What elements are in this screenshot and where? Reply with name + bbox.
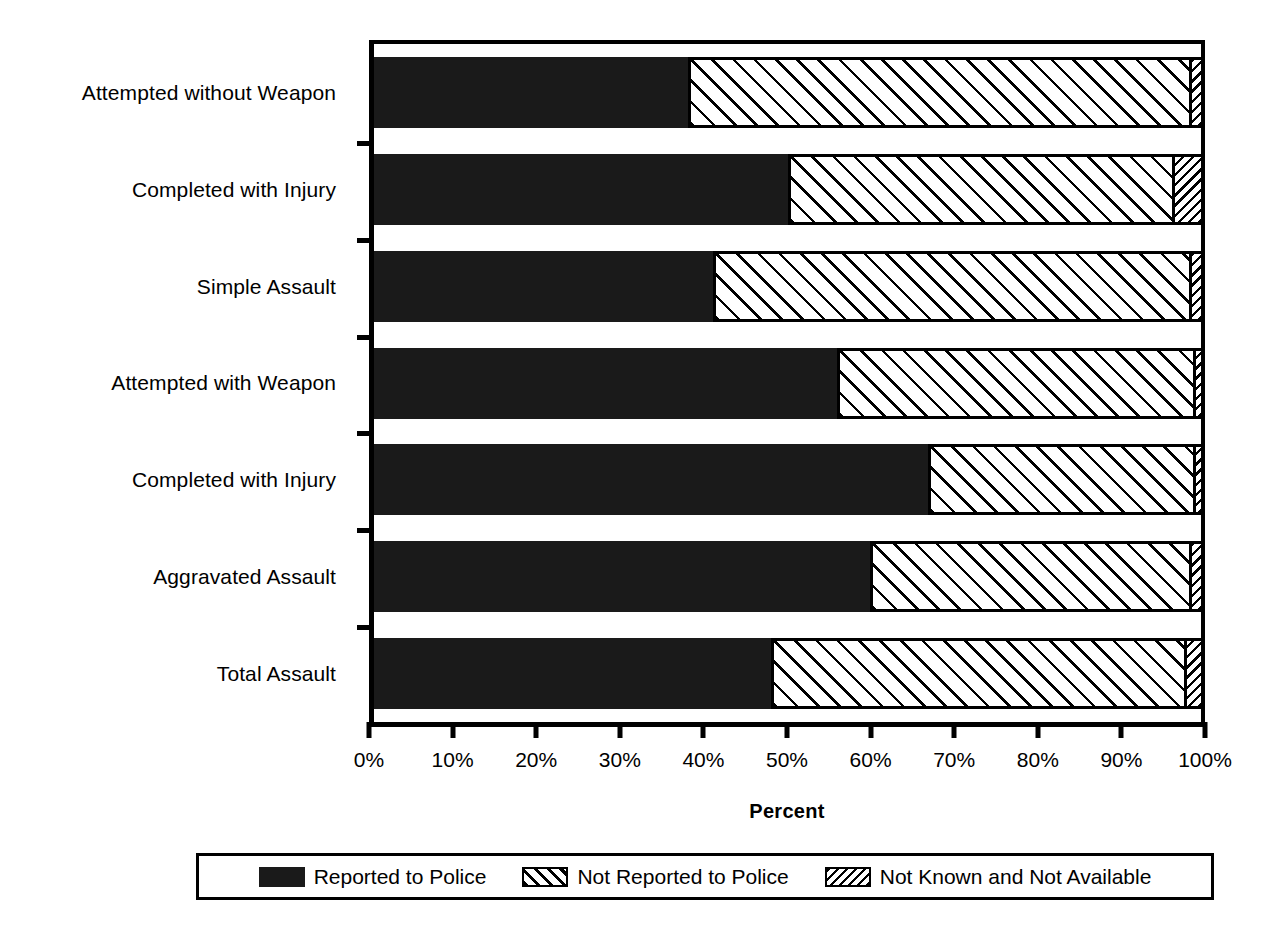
stacked-bar[interactable] — [374, 154, 1201, 225]
stacked-bar[interactable] — [374, 57, 1201, 128]
plot-area — [369, 40, 1205, 722]
bar-slot — [374, 528, 1201, 625]
category-label: Completed with Injury — [20, 431, 356, 528]
x-axis-tick-label: 20% — [515, 748, 557, 772]
bar-segment-not-known[interactable] — [1193, 444, 1201, 515]
category-label: Aggravated Assault — [20, 528, 356, 625]
stacked-bar[interactable] — [374, 638, 1201, 709]
bar-segment-not-reported[interactable] — [870, 541, 1188, 612]
x-axis-tick-label: 50% — [766, 748, 808, 772]
bar-slot — [374, 335, 1201, 432]
bar-segment-not-known[interactable] — [1189, 251, 1201, 322]
bars-container — [374, 44, 1201, 722]
solid-black-swatch-icon — [259, 867, 305, 887]
x-axis-tick-label: 90% — [1100, 748, 1142, 772]
x-axis-tick-label: 100% — [1178, 748, 1232, 772]
x-axis-tick — [617, 722, 622, 738]
x-axis-tick — [868, 722, 873, 738]
legend-item-not-reported: Not Reported to Police — [522, 865, 788, 889]
x-axis-tick — [785, 722, 790, 738]
bar-segment-not-known[interactable] — [1189, 57, 1201, 128]
x-axis-tick — [952, 722, 957, 738]
sparse-hatch-swatch-icon — [522, 867, 568, 887]
category-tick — [357, 431, 374, 436]
bar-segment-not-known[interactable] — [1189, 541, 1201, 612]
category-tick — [357, 335, 374, 340]
x-axis-tick-label: 70% — [933, 748, 975, 772]
x-axis-tick — [701, 722, 706, 738]
category-tick — [357, 141, 374, 146]
bar-segment-not-reported[interactable] — [771, 638, 1185, 709]
category-tick — [357, 238, 374, 243]
bar-segment-reported[interactable] — [374, 57, 688, 128]
bar-segment-reported[interactable] — [374, 638, 771, 709]
x-axis-ticks — [369, 722, 1205, 738]
x-axis-tick-label: 10% — [432, 748, 474, 772]
x-axis-tick-label: 40% — [682, 748, 724, 772]
bar-segment-not-reported[interactable] — [713, 251, 1189, 322]
bar-segment-not-known[interactable] — [1172, 154, 1201, 225]
x-axis-tick-label: 80% — [1017, 748, 1059, 772]
dense-hatch-swatch-icon — [825, 867, 871, 887]
category-tick — [357, 625, 374, 630]
bar-segment-not-reported[interactable] — [688, 57, 1188, 128]
bar-slot — [374, 141, 1201, 238]
stacked-bar[interactable] — [374, 348, 1201, 419]
x-axis-tick-label: 30% — [599, 748, 641, 772]
bar-segment-reported[interactable] — [374, 251, 713, 322]
bar-segment-not-reported[interactable] — [928, 444, 1193, 515]
legend-item-not-known: Not Known and Not Available — [825, 865, 1152, 889]
x-axis-tick — [1035, 722, 1040, 738]
category-tick — [357, 528, 374, 533]
x-axis-tick-labels: 0%10%20%30%40%50%60%70%80%90%100% — [369, 748, 1205, 778]
bar-segment-not-known[interactable] — [1184, 638, 1201, 709]
x-axis-tick — [1203, 722, 1208, 738]
x-axis-tick — [1119, 722, 1124, 738]
legend-label: Reported to Police — [314, 865, 487, 889]
bar-segment-reported[interactable] — [374, 541, 870, 612]
stacked-bar[interactable] — [374, 444, 1201, 515]
bar-segment-not-reported[interactable] — [837, 348, 1193, 419]
legend-item-reported: Reported to Police — [259, 865, 487, 889]
stacked-bar[interactable] — [374, 541, 1201, 612]
x-axis-tick — [450, 722, 455, 738]
bar-segment-not-known[interactable] — [1193, 348, 1201, 419]
bar-segment-reported[interactable] — [374, 348, 837, 419]
category-label: Attempted without Weapon — [20, 44, 356, 141]
x-axis-title: Percent — [369, 800, 1205, 823]
bar-slot — [374, 625, 1201, 722]
stacked-bar[interactable] — [374, 251, 1201, 322]
bar-segment-not-reported[interactable] — [788, 154, 1173, 225]
stacked-bar-chart-figure: Attempted without Weapon Completed with … — [0, 0, 1276, 944]
category-label: Total Assault — [20, 625, 356, 722]
x-axis-tick — [534, 722, 539, 738]
x-axis-tick — [367, 722, 372, 738]
category-label: Simple Assault — [20, 238, 356, 335]
bar-slot — [374, 238, 1201, 335]
x-axis-tick-label: 60% — [850, 748, 892, 772]
category-label: Completed with Injury — [20, 141, 356, 238]
chart-legend: Reported to Police Not Reported to Polic… — [196, 853, 1214, 900]
x-axis-tick-label: 0% — [354, 748, 384, 772]
bar-slot — [374, 44, 1201, 141]
category-axis-labels: Attempted without Weapon Completed with … — [20, 44, 356, 722]
category-label: Attempted with Weapon — [20, 335, 356, 432]
bar-segment-reported[interactable] — [374, 154, 788, 225]
legend-label: Not Reported to Police — [577, 865, 788, 889]
legend-label: Not Known and Not Available — [880, 865, 1152, 889]
bar-segment-reported[interactable] — [374, 444, 928, 515]
bar-slot — [374, 431, 1201, 528]
